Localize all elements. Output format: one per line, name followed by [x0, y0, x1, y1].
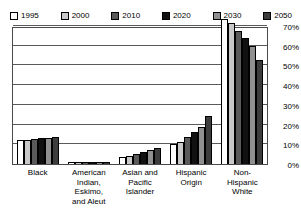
legend-swatch-icon [162, 12, 170, 20]
bar[interactable] [154, 148, 161, 164]
bar[interactable] [103, 162, 110, 164]
bar[interactable] [191, 132, 198, 164]
y-axis-labels: 0%10%20%30%40%50%60%70% [270, 27, 301, 165]
bar[interactable] [52, 137, 59, 164]
legend-label: 2050 [274, 11, 292, 20]
y-axis-tick-label: 50% [270, 62, 299, 71]
bar[interactable] [221, 19, 228, 164]
bar-group [17, 28, 59, 164]
bar[interactable] [31, 139, 38, 164]
bar[interactable] [89, 162, 96, 164]
bar[interactable] [177, 142, 184, 164]
x-axis-category-label: Asian andPacificIslander [116, 168, 164, 197]
bar[interactable] [184, 137, 191, 164]
bar[interactable] [82, 162, 89, 164]
x-axis-category-label: Black [14, 168, 62, 178]
legend-label: 2000 [72, 11, 90, 20]
bar[interactable] [119, 157, 126, 164]
bar[interactable] [256, 60, 263, 164]
x-axis-category-label: HispanicOrigin [167, 168, 215, 187]
bar[interactable] [205, 116, 212, 164]
chart-legend: 199520002010202020302050 [10, 8, 292, 23]
legend-item[interactable]: 2000 [61, 11, 90, 20]
bar[interactable] [75, 162, 82, 164]
plot-area [13, 28, 267, 164]
y-axis-tick-label: 0% [270, 161, 299, 170]
legend-item[interactable]: 2020 [162, 11, 191, 20]
legend-swatch-icon [61, 12, 69, 20]
bar-group [68, 28, 110, 164]
bar[interactable] [38, 138, 45, 164]
bar[interactable] [147, 150, 154, 164]
bar[interactable] [96, 162, 103, 164]
plot-frame [12, 27, 268, 165]
bar[interactable] [170, 144, 177, 164]
bar[interactable] [140, 152, 147, 164]
bar[interactable] [133, 154, 140, 164]
legend-item[interactable]: 1995 [10, 11, 39, 20]
bar-chart: 199520002010202020302050 0%10%20%30%40%5… [0, 0, 301, 214]
bar[interactable] [24, 140, 31, 164]
legend-label: 2010 [122, 11, 140, 20]
legend-item[interactable]: 2010 [111, 11, 140, 20]
legend-item[interactable]: 2050 [263, 11, 292, 20]
bar-group [119, 28, 161, 164]
bar[interactable] [17, 140, 24, 164]
y-axis-tick-label: 70% [270, 23, 299, 32]
bar[interactable] [68, 162, 75, 164]
bar[interactable] [242, 38, 249, 164]
bar[interactable] [249, 46, 256, 164]
bar[interactable] [126, 156, 133, 164]
y-axis-tick-label: 60% [270, 42, 299, 51]
y-axis-tick-label: 30% [270, 101, 299, 110]
legend-swatch-icon [10, 12, 18, 20]
x-axis-category-label: Non-HispanicWhite [218, 168, 266, 197]
legend-label: 1995 [21, 11, 39, 20]
legend-label: 2020 [173, 11, 191, 20]
y-axis-tick-label: 40% [270, 82, 299, 91]
bar[interactable] [45, 138, 52, 164]
bar-group [170, 28, 212, 164]
bar[interactable] [198, 127, 205, 164]
bar[interactable] [235, 31, 242, 164]
legend-swatch-icon [111, 12, 119, 20]
bar[interactable] [228, 23, 235, 164]
y-axis-tick-label: 20% [270, 121, 299, 130]
y-axis-tick-label: 10% [270, 141, 299, 150]
x-axis-labels: BlackAmericanIndian,Eskimo,and AleutAsia… [12, 168, 268, 212]
bar-group [221, 28, 263, 164]
legend-swatch-icon [263, 12, 271, 20]
x-axis-category-label: AmericanIndian,Eskimo,and Aleut [65, 168, 113, 206]
legend-swatch-icon [213, 12, 221, 20]
